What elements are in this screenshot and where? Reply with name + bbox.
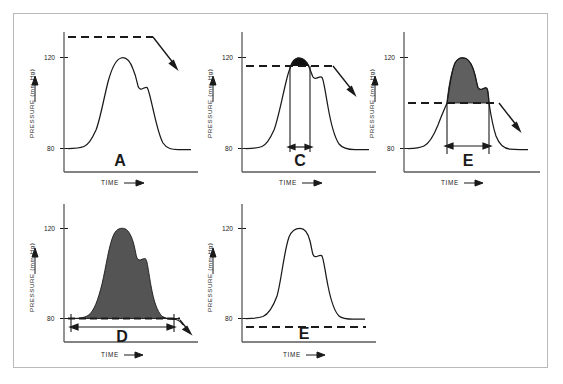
x-axis-arrow-icon bbox=[124, 352, 143, 358]
panel-letter: C bbox=[294, 152, 306, 169]
panel-a: PRESSURE (mm Hg) 120 80 A bbox=[22, 20, 200, 192]
x-axis-arrow-icon bbox=[306, 352, 325, 358]
y-tick-80: 80 bbox=[47, 315, 55, 322]
x-axis-label: TIME bbox=[279, 179, 297, 186]
panel-letter: E bbox=[299, 325, 310, 342]
y-tick-80: 80 bbox=[47, 145, 55, 152]
threshold-end-arrow-icon bbox=[499, 103, 520, 131]
pressure-waveform bbox=[68, 58, 191, 150]
pressure-waveform bbox=[246, 228, 365, 319]
shaded-region bbox=[71, 228, 180, 319]
x-axis-label: TIME bbox=[441, 179, 459, 186]
y-tick-120: 120 bbox=[384, 54, 395, 61]
y-tick-80: 80 bbox=[387, 145, 395, 152]
threshold-end-arrow-icon bbox=[180, 320, 191, 334]
threshold-end-arrow-icon bbox=[153, 37, 177, 69]
y-tick-120: 120 bbox=[44, 225, 55, 232]
pressure-waveform bbox=[246, 58, 369, 150]
panel-letter: A bbox=[114, 152, 126, 169]
threshold-end-arrow-icon bbox=[333, 66, 355, 95]
x-axis-arrow-icon bbox=[464, 180, 483, 186]
y-tick-120: 120 bbox=[44, 54, 55, 61]
panel-c: PRESSURE (mm Hg) 120 80 bbox=[362, 20, 542, 192]
panel-e: PRESSURE (mm Hg) 120 80 E TIME bbox=[200, 196, 378, 364]
y-tick-80: 80 bbox=[225, 315, 233, 322]
x-axis-arrow-icon bbox=[124, 180, 144, 186]
y-tick-120: 120 bbox=[222, 54, 233, 61]
shaded-region bbox=[447, 58, 489, 103]
panel-d: PRESSURE (mm Hg) 120 80 bbox=[22, 196, 200, 364]
x-axis-arrow-icon bbox=[302, 180, 322, 186]
x-axis-label: TIME bbox=[101, 351, 119, 358]
panel-letter: E bbox=[463, 152, 474, 169]
y-tick-120: 120 bbox=[222, 225, 233, 232]
x-axis-label: TIME bbox=[283, 351, 301, 358]
figure-frame: PRESSURE (mm Hg) 120 80 A bbox=[13, 13, 548, 368]
panel-letter: D bbox=[116, 328, 128, 345]
width-double-arrow-icon bbox=[445, 143, 491, 149]
y-tick-80: 80 bbox=[225, 145, 233, 152]
width-double-arrow-icon bbox=[288, 144, 312, 149]
panel-b: PRESSURE (mm Hg) 120 80 bbox=[200, 20, 378, 192]
x-axis-label: TIME bbox=[101, 179, 119, 186]
